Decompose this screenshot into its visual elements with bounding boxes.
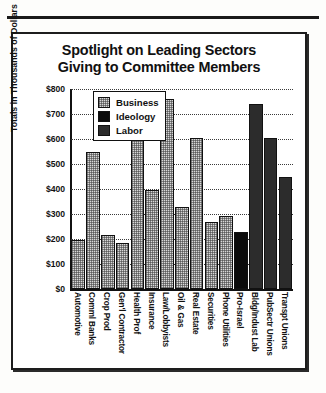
x-tick-label: Phone Utilities <box>221 292 230 347</box>
bar <box>145 190 159 289</box>
y-tick-label: $0 <box>55 284 65 294</box>
plot-area: BusinessIdeologyLabor <box>71 89 293 289</box>
page-top-rule <box>7 16 319 19</box>
bar <box>205 222 219 290</box>
bar <box>264 138 278 289</box>
y-axis-tick-labels: $800$700$600$500$400$300$200$100$0 <box>13 34 71 372</box>
x-tick-label: PubSectr Unions <box>265 292 274 356</box>
x-tick-label: Health Prof <box>132 292 141 334</box>
x-tick-label: Bldg/Indust Lab <box>250 292 259 352</box>
y-tick-label: $300 <box>46 209 65 219</box>
y-tick-label: $100 <box>46 259 65 269</box>
bar <box>190 138 204 289</box>
legend-item: Ideology <box>98 109 159 123</box>
x-axis-line <box>71 289 293 291</box>
x-tick-label: Comml Banks <box>87 292 96 345</box>
x-tick-label: Securities <box>206 292 215 330</box>
legend-item: Labor <box>98 123 159 137</box>
bar <box>101 235 115 289</box>
legend-swatch <box>98 97 110 108</box>
bar <box>219 216 233 289</box>
bar <box>131 137 145 290</box>
y-tick-label: $400 <box>46 184 65 194</box>
legend-swatch <box>98 125 110 136</box>
legend-item: Business <box>98 95 159 109</box>
gridline <box>71 89 293 90</box>
x-tick-label: Transpt Unions <box>280 292 289 350</box>
x-tick-label: Pro-Israel <box>235 292 244 328</box>
bar <box>86 152 100 290</box>
bar <box>175 207 189 290</box>
x-tick-label: Real Estate <box>191 292 200 335</box>
bar <box>116 243 130 289</box>
bar <box>279 177 293 290</box>
x-tick-label: Law/Lobbyists <box>161 292 170 347</box>
x-tick-label: Automotive <box>73 292 82 336</box>
x-tick-label: Crop Prod <box>102 292 111 331</box>
legend-swatch <box>98 111 110 122</box>
y-tick-label: $600 <box>46 134 65 144</box>
chart-legend: BusinessIdeologyLabor <box>93 91 166 141</box>
chart-frame: Spotlight on Leading Sectors Giving to C… <box>11 32 307 370</box>
x-tick-label: Insurance <box>147 292 156 329</box>
y-tick-label: $700 <box>46 109 65 119</box>
bar <box>234 232 248 289</box>
y-tick-label: $500 <box>46 159 65 169</box>
bar <box>71 240 85 289</box>
x-tick-label: Oil & Gas <box>176 292 185 328</box>
legend-label: Ideology <box>116 111 155 122</box>
x-tick-label: Gen'l Contractor <box>117 292 126 354</box>
y-tick-label: $800 <box>46 84 65 94</box>
x-axis-tick-labels: AutomotiveComml BanksCrop ProdGen'l Cont… <box>71 292 293 377</box>
legend-label: Labor <box>116 125 143 136</box>
y-tick-label: $200 <box>46 234 65 244</box>
bar <box>249 104 263 289</box>
legend-label: Business <box>116 97 159 108</box>
